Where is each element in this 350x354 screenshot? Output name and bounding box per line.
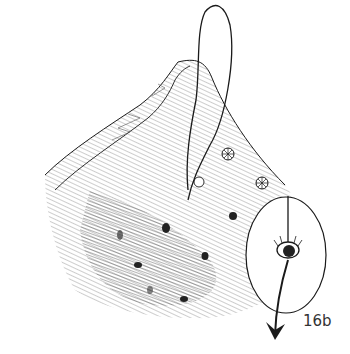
tissue-illustration <box>0 0 350 354</box>
stitch-rosette-3 <box>194 177 204 187</box>
figure-label: 16b <box>303 312 332 330</box>
stitch-rosette-2 <box>256 177 268 189</box>
stitch-rosette-1 <box>222 148 234 160</box>
